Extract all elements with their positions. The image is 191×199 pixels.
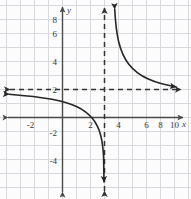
y-axis-label: y [66,5,71,15]
graph-canvas: -2 2 4 6 8 10 -4 -2 2 4 6 8 y x [0,0,191,199]
x-tick-label-2: 2 [88,120,93,130]
x-tick-label-6: 6 [144,120,149,130]
y-tick-label-4: 4 [53,57,58,67]
rational-function-graph: -2 2 4 6 8 10 -4 -2 2 4 6 8 y x [0,0,191,199]
x-tick-label--2: -2 [27,120,35,130]
y-tick-label-6: 6 [53,29,58,39]
y-tick-label-8: 8 [53,15,58,25]
x-tick-label-8: 8 [158,120,163,130]
y-tick-label-2: 2 [53,85,58,95]
y-tick-label--2: -2 [50,128,58,138]
y-tick-label--4: -4 [50,156,58,166]
plot-background [0,0,191,199]
x-axis-label: x [181,119,186,129]
x-tick-label-4: 4 [116,120,121,130]
x-tick-label-10: 10 [170,120,180,130]
